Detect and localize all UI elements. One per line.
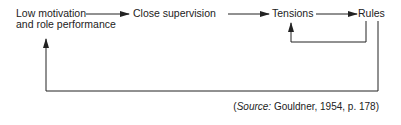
source-text: Gouldner, 1954, p. 178) — [271, 101, 379, 112]
source-label: Source: — [237, 101, 271, 112]
node-low-motivation-line2: and role performance — [16, 19, 116, 30]
source-citation: (Source: Gouldner, 1954, p. 178) — [233, 101, 379, 112]
node-close-supervision: Close supervision — [133, 8, 216, 19]
node-low-motivation: Low motivation and role performance — [16, 8, 116, 30]
arrow-rules-to-low — [46, 21, 378, 91]
node-tensions: Tensions — [272, 8, 313, 19]
arrow-rules-to-tensions — [291, 21, 366, 42]
node-rules: Rules — [358, 8, 385, 19]
